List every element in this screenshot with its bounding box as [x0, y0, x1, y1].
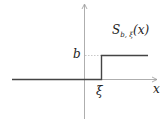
function-label: Sb, ξ(x) — [112, 24, 149, 39]
step-label: ξ — [96, 85, 103, 97]
function-argument: (x) — [133, 23, 149, 37]
function-name: S — [112, 23, 120, 37]
level-label: b — [73, 48, 81, 60]
step-function-diagram — [0, 0, 168, 121]
function-subscript: b, ξ — [120, 31, 133, 39]
x-axis-label: x — [153, 83, 160, 95]
